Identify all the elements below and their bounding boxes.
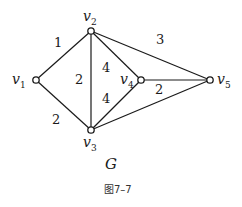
vertex-v5	[207, 77, 213, 83]
weight-v1-v2: 1	[54, 36, 62, 49]
weight-v3-v4: 4	[102, 92, 110, 105]
weight-v1-v3: 2	[52, 113, 60, 126]
vertex-label-v2: v2	[83, 9, 97, 27]
vertex-label-v4: v4	[120, 72, 134, 90]
vertex-v2	[88, 28, 94, 34]
weight-v4-v5: 2	[155, 83, 163, 96]
vertex-label-v5: v5	[217, 72, 231, 90]
figure-caption: 图7–7	[104, 185, 132, 195]
vertex-label-v3: v3	[83, 135, 97, 153]
vertex-v3	[88, 127, 94, 133]
edge-v1-v3	[36, 80, 91, 130]
vertex-v1	[33, 77, 39, 83]
graph-name: G	[105, 157, 117, 172]
vertex-label-v1: v1	[12, 72, 26, 90]
graph-canvas	[0, 0, 242, 207]
weight-v2-v4: 4	[102, 61, 110, 74]
vertex-v4	[138, 77, 144, 83]
weight-v2-v3: 2	[75, 73, 83, 86]
weight-v2-v5: 3	[156, 33, 164, 46]
